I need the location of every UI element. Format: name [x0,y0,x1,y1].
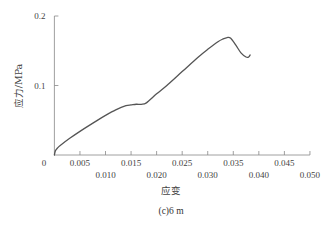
stress-strain-curve [54,37,250,155]
y-tick-label: 0.1 [34,81,45,91]
x-tick-label: 0.035 [223,158,244,168]
axes [54,16,310,155]
x-tick-label: 0.040 [249,170,270,180]
x-tick-label: 0.010 [95,170,116,180]
x-tick-label: 0.020 [146,170,167,180]
x-origin-label: 0 [42,158,47,168]
x-tick-label: 0.015 [121,158,142,168]
figure-caption: (c)6 m [158,206,184,217]
y-tick-label: 0.2 [34,11,45,21]
x-tick-label: 0.045 [274,158,295,168]
x-tick-label: 0.005 [70,158,91,168]
y-axis-title: 应力/MPa [13,63,24,108]
x-tick-label: 0.030 [198,170,219,180]
x-tick-label: 0.025 [172,158,193,168]
x-axis-title: 应变 [161,185,181,196]
stress-strain-chart: 0.0050.0100.0150.0200.0250.0300.0350.040… [0,0,333,230]
x-tick-label: 0.050 [300,170,321,180]
